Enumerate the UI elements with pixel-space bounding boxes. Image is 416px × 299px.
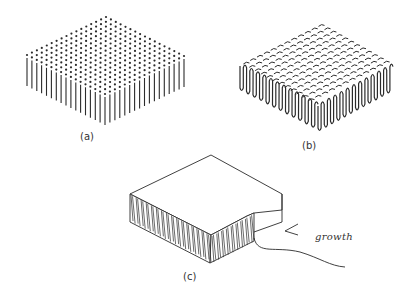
growth-annotation: growth	[315, 231, 353, 242]
panel-c-label: (c)	[183, 271, 196, 282]
panel-b-label: (b)	[302, 140, 316, 151]
panel-a-label: (a)	[80, 131, 94, 142]
diagram-canvas	[0, 0, 416, 299]
panel-b-wavy-walls	[240, 25, 393, 131]
figure: (a) (b) (c) growth	[0, 0, 416, 299]
panel-a-pillar-array	[26, 16, 185, 125]
panel-c-block	[130, 155, 345, 267]
